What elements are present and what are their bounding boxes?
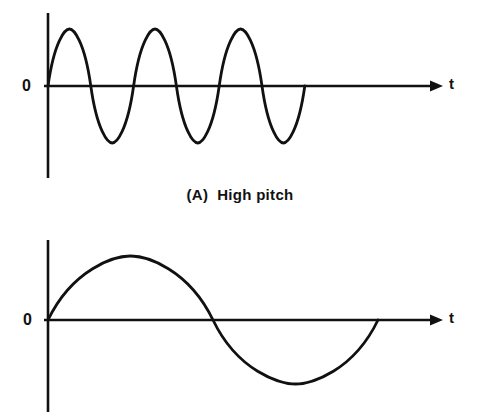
panel-high-pitch: 0 t (A) High pitch: [0, 0, 480, 210]
time-axis-arrow-icon: [430, 315, 443, 326]
time-axis-label: t: [449, 76, 454, 91]
origin-label: 0: [23, 312, 32, 328]
figure-root: 0 t (A) High pitch 0 t: [0, 0, 480, 412]
panel-low-pitch: 0 t: [0, 210, 480, 412]
time-axis-label: t: [449, 310, 454, 325]
panel-caption-high-pitch: (A) High pitch: [0, 186, 480, 203]
high-pitch-plot: [0, 0, 480, 210]
low-pitch-plot: [0, 210, 480, 412]
origin-label: 0: [22, 78, 31, 94]
time-axis-arrow-icon: [430, 81, 443, 92]
